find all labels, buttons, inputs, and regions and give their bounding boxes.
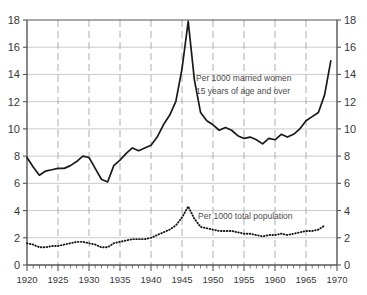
chart-background — [0, 0, 367, 295]
y-tick-label-right: 4 — [344, 205, 350, 217]
y-tick-label-left: 2 — [14, 232, 20, 244]
y-tick-label-left: 10 — [8, 123, 20, 135]
y-tick-label-right: 16 — [344, 41, 356, 53]
y-tick-label-left: 16 — [8, 41, 20, 53]
y-tick-label-right: 2 — [344, 232, 350, 244]
bottom-axis-tick-labels: 1920192519301935194019451950195519601965… — [16, 274, 347, 285]
y-tick-label-left: 18 — [8, 14, 20, 26]
x-tick-label: 1940 — [140, 274, 161, 285]
chart-canvas: 024681012141618 024681012141618 19201925… — [0, 0, 367, 295]
annotation-total-population-line1: Per 1000 total population — [198, 211, 293, 221]
y-tick-label-right: 6 — [344, 177, 350, 189]
x-tick-label: 1955 — [233, 274, 254, 285]
x-tick-label: 1935 — [109, 274, 130, 285]
y-tick-label-right: 18 — [344, 14, 356, 26]
y-tick-label-left: 4 — [14, 205, 20, 217]
y-tick-label-right: 14 — [344, 68, 356, 80]
x-tick-label: 1950 — [202, 274, 223, 285]
y-tick-label-left: 14 — [8, 68, 20, 80]
annotation-married-women-line1: Per 1000 married women — [196, 73, 292, 83]
y-tick-label-left: 6 — [14, 177, 20, 189]
y-tick-label-left: 12 — [8, 96, 20, 108]
x-tick-label: 1930 — [78, 274, 99, 285]
y-tick-label-left: 8 — [14, 150, 20, 162]
y-tick-label-right: 8 — [344, 150, 350, 162]
x-tick-label: 1925 — [47, 274, 68, 285]
divorce-rate-chart: 024681012141618 024681012141618 19201925… — [0, 0, 367, 295]
x-tick-label: 1960 — [264, 274, 285, 285]
x-tick-label: 1920 — [16, 274, 37, 285]
y-tick-label-left: 0 — [14, 259, 20, 271]
x-tick-label: 1945 — [171, 274, 192, 285]
x-tick-label: 1965 — [295, 274, 316, 285]
y-tick-label-right: 12 — [344, 96, 356, 108]
annotation-married-women-line2: 15 years of age and over — [196, 86, 290, 96]
y-tick-label-right: 10 — [344, 123, 356, 135]
x-tick-label: 1970 — [326, 274, 347, 285]
y-tick-label-right: 0 — [344, 259, 350, 271]
